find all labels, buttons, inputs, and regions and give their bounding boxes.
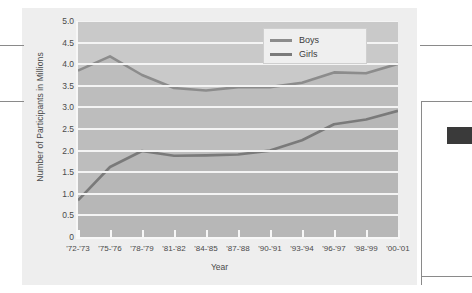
x-axis-tick-label: '84-'85 [194,244,218,253]
x-axis-tick [366,230,368,239]
y-axis-tick-label: 4.0 [62,59,74,69]
gridline [78,128,398,130]
legend-swatch-girls [270,53,292,56]
page-rule-right-upper [420,45,472,46]
x-axis-tick [78,230,80,239]
y-axis-tick-label: 0 [69,232,74,242]
y-axis-tick-label: 1.0 [62,189,74,199]
participants-line-chart: Number of Participants in Millions 00.51… [22,8,417,285]
y-axis-tick-label: 3.5 [62,81,74,91]
page-rule-right-vertical [421,101,422,285]
x-axis-tick-label: '98-'99 [354,244,378,253]
page-rule-right-lower [421,276,472,277]
x-axis-tick [398,230,400,239]
page-edge-tab [447,127,472,144]
legend-label-girls: Girls [299,49,318,59]
x-axis-tick-label: '87-'88 [226,244,250,253]
legend-label-boys: Boys [299,35,319,45]
x-axis-tick-label: '72-'73 [66,244,90,253]
x-axis-tick-labels: '72-'73'75-'76'78-'79'81-'82'84-'85'87-'… [78,244,398,258]
x-axis-tick [206,230,208,239]
x-axis-tick-label: '90-'91 [258,244,282,253]
y-axis-tick-labels: 00.51.01.52.02.53.03.54.04.55.0 [50,21,74,237]
gridline [78,214,398,216]
gridline [78,150,398,152]
gridline [78,193,398,195]
legend-item-boys: Boys [270,33,360,47]
x-axis-tick [270,230,272,239]
x-axis-tick-label: '96-'97 [322,244,346,253]
page-rule-right-middle [421,101,472,102]
x-axis-tick [238,230,240,239]
x-axis-tick-label: '81-'82 [162,244,186,253]
y-axis-tick-label: 3.0 [62,102,74,112]
y-axis-tick-label: 1.5 [62,167,74,177]
gridline [78,21,398,22]
y-axis-line [76,21,78,239]
x-axis-tick [110,230,112,239]
x-axis-tick-label: '00-'01 [386,244,410,253]
y-axis-tick-label: 0.5 [62,210,74,220]
gridline [78,106,398,108]
x-axis-title: Year [22,262,417,272]
y-axis-tick-label: 2.0 [62,146,74,156]
x-axis-tick-label: '75-'76 [98,244,122,253]
chart-legend: Boys Girls [263,28,367,64]
page-rule-left-lower [0,101,24,102]
y-axis-tick-label: 5.0 [62,16,74,26]
gridline [78,171,398,173]
x-axis-tick [334,230,336,239]
x-axis-tick [302,230,304,239]
legend-swatch-boys [270,39,292,42]
x-axis-tick [142,230,144,239]
y-axis-tick-label: 4.5 [62,38,74,48]
x-axis-tick-label: '78-'79 [130,244,154,253]
legend-item-girls: Girls [270,47,360,61]
y-axis-title: Number of Participants in Millions [35,37,45,197]
y-axis-tick-label: 2.5 [62,124,74,134]
x-axis-tick-label: '93-'94 [290,244,314,253]
page-rule-left-upper [0,45,24,46]
x-axis-tick [174,230,176,239]
gridline [78,85,398,87]
